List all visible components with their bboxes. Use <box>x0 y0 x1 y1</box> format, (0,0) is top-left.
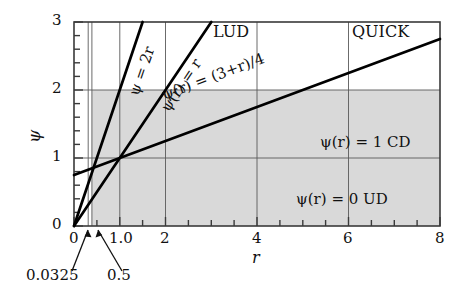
quick-label: QUICK <box>352 24 409 40</box>
ytick-label-1: 1 <box>52 149 62 164</box>
arrowhead-00325 <box>85 230 92 237</box>
xtick-label-8: 8 <box>435 231 445 246</box>
y-axis-ticks <box>74 22 83 226</box>
ytick-label-2: 2 <box>52 81 62 96</box>
xtick-label-6: 6 <box>343 231 353 246</box>
y-axis-title: ψ <box>24 130 44 143</box>
xtick-label-0: 0 <box>69 231 79 246</box>
callout-label-05: 0.5 <box>107 268 131 283</box>
ytick-label-3: 3 <box>52 13 62 28</box>
xtick-label-1: 1.0 <box>109 231 133 246</box>
lud-label: LUD <box>213 24 249 40</box>
cd-label: ψ(r) = 1 CD <box>320 135 411 150</box>
ud-label: ψ(r) = 0 UD <box>296 192 388 207</box>
xtick-label-4: 4 <box>252 231 262 246</box>
callout-label-00325: 0.0325 <box>26 268 79 283</box>
nvd-figure: 3 2 1 0 ψ 0 1.0 2 4 6 8 r 0.0325 0.5 LUD… <box>0 0 475 295</box>
x-axis-title: r <box>252 250 260 266</box>
ytick-label-0: 0 <box>52 217 62 232</box>
xtick-label-2: 2 <box>160 231 170 246</box>
